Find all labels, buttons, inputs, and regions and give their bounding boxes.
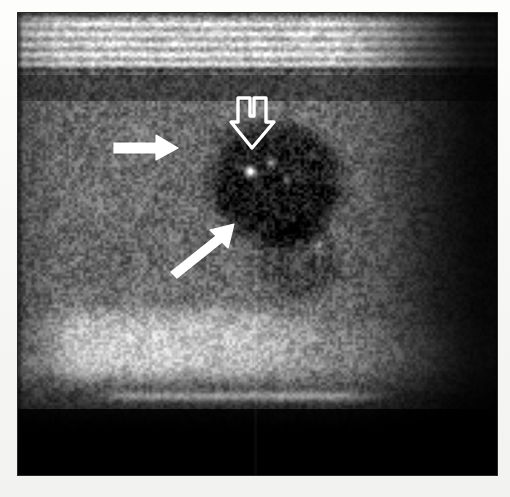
page-root: [0, 0, 510, 497]
ultrasound-image-frame: [18, 13, 497, 475]
ultrasound-image: [18, 13, 497, 475]
